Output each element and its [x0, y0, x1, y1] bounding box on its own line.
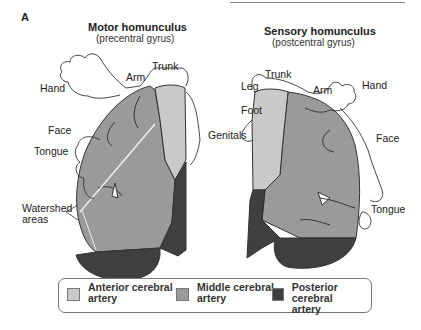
label-motor-hand: Hand: [40, 82, 65, 94]
motor-hemisphere: [76, 85, 186, 280]
sensory-hemisphere: [247, 89, 360, 268]
label-sensory-hand: Hand: [362, 79, 387, 91]
legend-anterior-line2: artery: [88, 293, 173, 304]
label-sensory-foot: Foot: [241, 104, 262, 116]
legend-item-posterior: Posterior cerebralartery: [272, 282, 371, 315]
legend-middle-line2: artery: [197, 293, 274, 304]
label-motor-arm: Arm: [126, 71, 145, 83]
label-sensory-arm: Arm: [313, 84, 332, 96]
legend-item-middle: Middle cerebralartery: [176, 282, 274, 304]
swatch-middle: [176, 288, 189, 301]
legend-posterior-line1: Posterior cerebral: [292, 282, 371, 304]
label-motor-face: Face: [48, 124, 71, 136]
swatch-anterior: [67, 288, 80, 301]
label-sensory-genitals: Genitals: [208, 129, 247, 141]
swatch-posterior: [272, 288, 284, 301]
legend-item-anterior: Anterior cerebralartery: [67, 282, 173, 304]
motor-posterior-occipital: [76, 248, 160, 280]
label-sensory-tongue: Tongue: [371, 203, 405, 215]
label-sensory-trunk: Trunk: [265, 68, 291, 80]
label-motor-tongue: Tongue: [34, 145, 68, 157]
label-watershed-areas: areas: [22, 213, 48, 225]
legend: Anterior cerebralartery Middle cerebrala…: [58, 278, 372, 313]
label-sensory-leg: Leg: [241, 80, 259, 92]
sensory-posterior-occipital: [274, 238, 356, 268]
label-sensory-face: Face: [376, 132, 399, 144]
legend-posterior-line2: artery: [292, 304, 371, 315]
label-motor-trunk: Trunk: [152, 60, 178, 72]
